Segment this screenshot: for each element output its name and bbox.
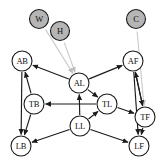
node-circle-lb	[11, 136, 31, 156]
edge-tl-to-tf	[117, 108, 134, 114]
causal-graph-figure: WHCABAFALTBTLTFLLLBLF	[0, 0, 162, 166]
node-circle-tb	[24, 94, 44, 114]
node-circle-ab	[12, 51, 32, 71]
node-lb[interactable]: LB	[11, 136, 31, 156]
edge-al-to-tl	[88, 90, 98, 97]
node-lf[interactable]: LF	[129, 136, 149, 156]
node-tb[interactable]: TB	[24, 94, 44, 114]
node-circle-ll	[70, 116, 90, 136]
node-layer: WHCABAFALTBTLTFLLLBLF	[11, 10, 155, 157]
node-circle-tl	[97, 94, 117, 114]
node-circle-c	[127, 10, 146, 29]
edge-al-to-ab	[33, 65, 69, 79]
node-ll[interactable]: LL	[70, 116, 90, 136]
node-circle-w	[30, 10, 49, 29]
edge-ab-to-lb	[21, 72, 22, 134]
node-c[interactable]: C	[127, 10, 146, 29]
edge-tb-to-lb	[24, 115, 30, 135]
graph-svg-canvas: WHCABAFALTBTLTFLLLBLF	[0, 0, 162, 166]
edge-ll-to-lb	[32, 130, 70, 143]
edge-tb-to-ab	[25, 72, 31, 93]
node-circle-tf	[135, 107, 155, 127]
node-af[interactable]: AF	[123, 51, 143, 71]
edge-al-to-af	[89, 65, 122, 78]
edge-ll-to-lf	[90, 130, 128, 143]
node-circle-al	[69, 73, 89, 93]
node-circle-lf	[129, 136, 149, 156]
edge-ll-to-tl	[89, 111, 98, 119]
node-al[interactable]: AL	[69, 73, 89, 93]
node-tf[interactable]: TF	[135, 107, 155, 127]
node-circle-h	[51, 22, 70, 41]
node-tl[interactable]: TL	[97, 94, 117, 114]
node-circle-af	[123, 51, 143, 71]
edge-tf-to-lf	[141, 128, 142, 135]
node-w[interactable]: W	[30, 10, 49, 29]
node-ab[interactable]: AB	[12, 51, 32, 71]
node-h[interactable]: H	[51, 22, 70, 41]
